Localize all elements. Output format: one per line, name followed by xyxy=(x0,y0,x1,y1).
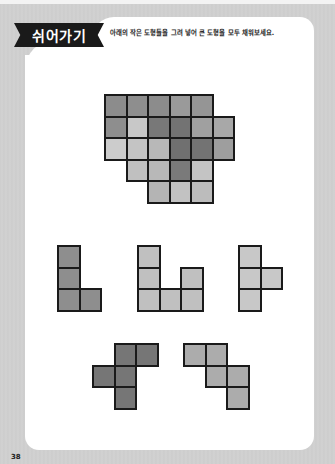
piece-cell xyxy=(137,245,161,269)
piece-cell xyxy=(137,267,161,291)
piece-cell xyxy=(79,288,103,312)
target-cell xyxy=(169,180,193,204)
target-cell xyxy=(169,159,193,183)
target-cell xyxy=(169,116,193,140)
piece-cell xyxy=(238,245,262,269)
target-cell xyxy=(169,137,193,161)
piece-cell xyxy=(205,343,229,367)
piece-cell xyxy=(114,386,138,410)
piece-cell xyxy=(159,288,183,312)
page-number: 38 xyxy=(11,453,21,461)
target-cell xyxy=(104,94,128,118)
target-cell xyxy=(212,116,236,140)
piece-cell xyxy=(180,288,204,312)
target-cell xyxy=(126,94,150,118)
piece-cell xyxy=(92,365,116,389)
instruction-text: 아래의 작은 도형들을 그려 넣어 큰 도형을 모두 채워보세요. xyxy=(110,28,274,37)
target-cell xyxy=(126,159,150,183)
target-cell xyxy=(104,137,128,161)
target-cell xyxy=(147,94,171,118)
piece-cell xyxy=(180,267,204,291)
target-cell xyxy=(126,137,150,161)
target-cell xyxy=(190,159,214,183)
piece-cell xyxy=(238,288,262,312)
target-cell xyxy=(190,94,214,118)
target-cell xyxy=(147,159,171,183)
piece-cell xyxy=(57,245,81,269)
piece-cell xyxy=(205,365,229,389)
target-cell xyxy=(190,137,214,161)
piece-cell xyxy=(260,267,284,291)
piece-cell xyxy=(114,343,138,367)
section-badge: 쉬어가기 xyxy=(14,23,104,47)
target-cell xyxy=(190,116,214,140)
piece-cell xyxy=(114,365,138,389)
piece-cell xyxy=(226,386,250,410)
piece-cell xyxy=(135,343,159,367)
piece-cell xyxy=(57,267,81,291)
piece-cell xyxy=(226,365,250,389)
target-cell xyxy=(212,137,236,161)
target-cell xyxy=(126,116,150,140)
target-cell xyxy=(147,137,171,161)
piece-cell xyxy=(137,288,161,312)
piece-cell xyxy=(238,267,262,291)
target-cell xyxy=(169,94,193,118)
piece-cell xyxy=(183,343,207,367)
piece-cell xyxy=(57,288,81,312)
top-strip xyxy=(0,0,335,4)
target-cell xyxy=(147,116,171,140)
target-cell xyxy=(104,116,128,140)
target-cell xyxy=(190,180,214,204)
section-badge-label: 쉬어가기 xyxy=(32,25,86,45)
target-cell xyxy=(147,180,171,204)
